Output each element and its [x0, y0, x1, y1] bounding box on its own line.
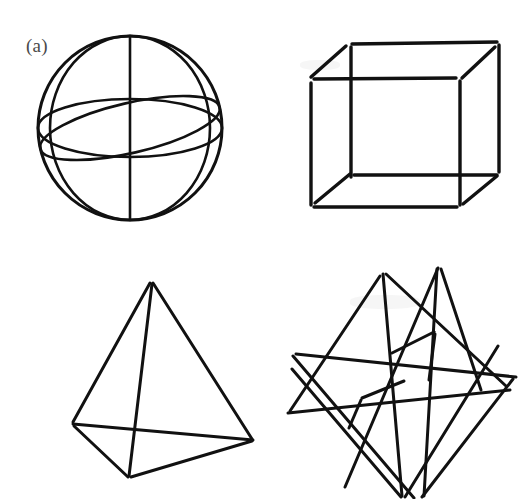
- stella-inner-edge-upper-right: [392, 332, 434, 353]
- tetrahedron-drawing: [0, 250, 266, 499]
- tetra-edge-right-front: [131, 441, 252, 477]
- stella-inner-edge-left-vertical: [349, 400, 361, 428]
- panel-a-sphere: (a): [0, 0, 266, 249]
- panel-d-stella-octangula: (d): [266, 250, 532, 499]
- sphere-drawing: [0, 0, 266, 249]
- tetra-edge-left-right: [73, 424, 253, 440]
- panel-b-cube: (b): [266, 0, 532, 249]
- panel-c-tetrahedron: (c): [0, 250, 266, 499]
- cube-edge-top-right-diagonal: [462, 47, 495, 78]
- stella-t2-edge-left-back: [290, 276, 380, 411]
- cube-edge-front-top: [314, 78, 456, 79]
- cube-edge-bottom-left-diagonal: [315, 174, 350, 203]
- figure-root: (a) (b): [0, 0, 532, 499]
- cube-edge-back-top: [352, 42, 497, 44]
- tetra-edge-left-front: [74, 426, 128, 477]
- cube-edge-top-left-diagonal: [311, 46, 346, 77]
- stella-octangula-drawing: [266, 250, 532, 499]
- cube-edge-bottom-right-diagonal: [463, 176, 497, 204]
- cube-drawing: [266, 0, 532, 249]
- tetra-edge-apex-right: [153, 283, 252, 439]
- stella-t2-edge-apex-right: [405, 346, 498, 497]
